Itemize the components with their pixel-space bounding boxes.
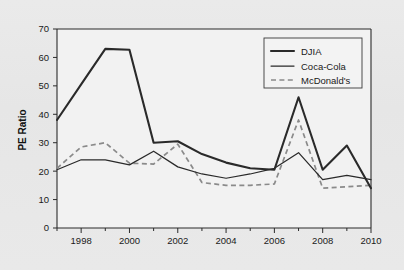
y-tick-label: 70: [38, 23, 49, 34]
y-axis: 010203040506070: [38, 23, 57, 233]
x-tick-label: 2004: [216, 235, 237, 246]
x-tick-label: 1998: [71, 235, 92, 246]
pe-ratio-line-chart: 010203040506070 199820002002200420062008…: [0, 0, 404, 270]
y-tick-label: 50: [38, 80, 49, 91]
x-tick-label: 2000: [119, 235, 140, 246]
y-tick-label: 20: [38, 166, 49, 177]
y-tick-label: 40: [38, 109, 49, 120]
x-tick-label: 2002: [167, 235, 188, 246]
x-tick-label: 2008: [312, 235, 333, 246]
legend: DJIA Coca-Cola McDonald's: [264, 38, 362, 88]
y-axis-title: PE Ratio: [17, 109, 28, 150]
x-tick-label: 2010: [360, 235, 381, 246]
x-axis: 1998200020022004200620082010: [57, 228, 382, 246]
y-tick-label: 10: [38, 194, 49, 205]
legend-label-mcdonalds: McDonald's: [301, 75, 351, 86]
legend-label-coca-cola: Coca-Cola: [301, 61, 347, 72]
x-tick-label: 2006: [264, 235, 285, 246]
y-tick-label: 30: [38, 137, 49, 148]
y-tick-label: 60: [38, 52, 49, 63]
y-axis-ticks: 010203040506070: [38, 23, 57, 233]
x-axis-ticks: 1998200020022004200620082010: [57, 228, 382, 246]
y-tick-label: 0: [44, 222, 49, 233]
chart-figure: 010203040506070 199820002002200420062008…: [0, 0, 404, 270]
legend-label-djia: DJIA: [301, 46, 322, 57]
